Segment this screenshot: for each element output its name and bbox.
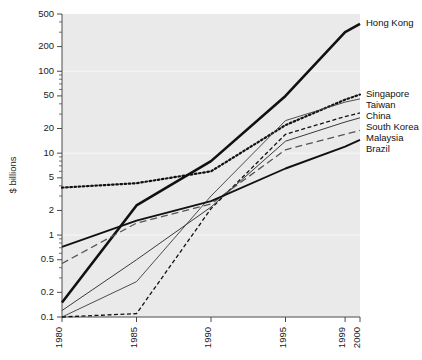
- y-tick-label: 5: [49, 171, 54, 182]
- y-tick-label: 10: [43, 147, 54, 158]
- plot-area-background: [62, 14, 360, 317]
- x-tick-label: 1980: [53, 327, 64, 348]
- y-tick-label: 0.5: [41, 253, 54, 264]
- line-chart: 0.10.20.5125102050100200500 198019851990…: [0, 0, 422, 360]
- x-tick-label: 1999: [336, 327, 347, 348]
- x-tick-label: 1990: [202, 327, 213, 348]
- series-label-brazil: Brazil: [366, 143, 390, 154]
- chart-container: 0.10.20.5125102050100200500 198019851990…: [0, 0, 422, 360]
- y-tick-label: 2: [49, 204, 54, 215]
- y-tick-label: 0.2: [41, 286, 54, 297]
- y-tick-label: 500: [38, 8, 54, 19]
- y-tick-label: 100: [38, 65, 54, 76]
- y-tick-label: 20: [43, 122, 54, 133]
- x-tick-label: 1995: [277, 327, 288, 348]
- series-label-taiwan: Taiwan: [366, 99, 396, 110]
- y-axis-title: $ billions: [7, 156, 18, 193]
- y-tick-label: 200: [38, 40, 54, 51]
- series-label-south-korea: South Korea: [366, 121, 420, 132]
- series-label-china: China: [366, 110, 392, 121]
- x-tick-label: 2000: [351, 327, 362, 348]
- series-label-malaysia: Malaysia: [366, 132, 404, 143]
- x-tick-label: 1985: [128, 327, 139, 348]
- series-label-hong-kong: Hong Kong: [366, 17, 414, 28]
- series-label-singapore: Singapore: [366, 88, 409, 99]
- y-tick-label: 50: [43, 89, 54, 100]
- y-tick-label: 1: [49, 229, 54, 240]
- y-tick-label: 0.1: [41, 311, 54, 322]
